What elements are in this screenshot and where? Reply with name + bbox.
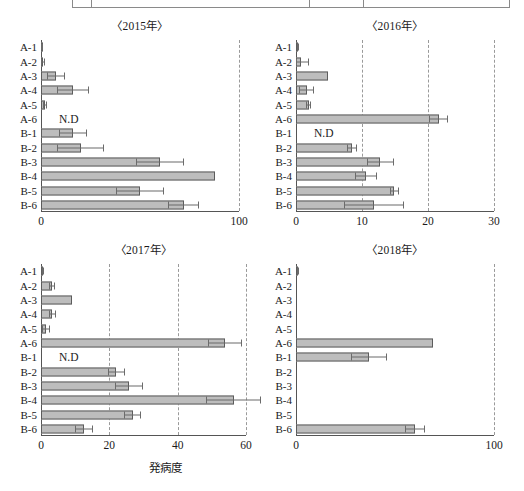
- category-label-a-3: A-3: [20, 294, 37, 306]
- category-label-a-3: A-3: [20, 70, 37, 82]
- category-label-a-5: A-5: [275, 99, 292, 111]
- category-label-a-6: A-6: [20, 113, 37, 125]
- bar-a-3: [296, 71, 328, 80]
- error-bar-b-6: [75, 428, 93, 429]
- error-bar-b-2: [347, 147, 358, 148]
- category-label-a-3: A-3: [275, 70, 292, 82]
- error-bar-a-4: [49, 314, 56, 315]
- category-label-b-4: B-4: [276, 394, 293, 406]
- x-tick-label: 20: [104, 439, 116, 451]
- category-label-b-4: B-4: [21, 170, 38, 182]
- error-bar-b-2: [108, 371, 125, 372]
- bar-b-6: [41, 200, 184, 209]
- x-axis-line: [296, 211, 494, 212]
- bar-b-4: [41, 396, 234, 405]
- plot-area-2018: A-1A-2A-3A-4A-5A-6B-1B-2B-3B-4B-5B-60100: [296, 264, 494, 436]
- error-bar-a-1: [297, 47, 300, 48]
- category-label-b-2: B-2: [21, 142, 38, 154]
- panel-title-2018: 〈2018年〉: [296, 241, 494, 257]
- error-bar-b-4: [355, 176, 376, 177]
- bar-a-6: [296, 114, 439, 123]
- category-label-b-3: B-3: [276, 380, 293, 392]
- category-label-b-6: B-6: [276, 199, 293, 211]
- category-label-a-1: A-1: [20, 41, 37, 53]
- gridline: [239, 40, 240, 211]
- top-legend-box-clipped: [72, 0, 510, 8]
- category-label-a-6: A-6: [275, 337, 292, 349]
- error-bar-b-5: [390, 190, 399, 191]
- plot-area-2017: A-1A-2A-3A-4A-5A-6B-1N.DB-2B-3B-4B-5B-60…: [41, 264, 246, 436]
- y-axis-line: [296, 264, 297, 436]
- error-bar-b-1: [351, 357, 387, 358]
- bar-b-6: [296, 424, 415, 433]
- category-label-a-4: A-4: [275, 84, 292, 96]
- error-bar-a-3: [47, 75, 65, 76]
- error-bar-b-6: [405, 428, 425, 429]
- error-bar-b-4: [206, 400, 261, 401]
- category-label-a-6: A-6: [275, 113, 292, 125]
- bar-b-4: [41, 172, 215, 181]
- error-bar-a-6: [429, 118, 447, 119]
- category-label-a-6: A-6: [20, 337, 37, 349]
- error-bar-a-5: [43, 104, 48, 105]
- category-label-b-2: B-2: [276, 142, 293, 154]
- bar-a-3: [41, 295, 72, 304]
- category-label-b-6: B-6: [276, 423, 293, 435]
- plot-area-2015: A-1A-2A-3A-4A-5A-6N.DB-1B-2B-3B-4B-5B-60…: [41, 40, 239, 212]
- gridline: [428, 40, 429, 211]
- plot-area-2016: A-1A-2A-3A-4A-5A-6B-1N.DB-2B-3B-4B-5B-60…: [296, 40, 494, 212]
- x-tick-label: 20: [422, 215, 434, 227]
- category-label-b-5: B-5: [276, 409, 293, 421]
- error-bar-a-5: [42, 328, 50, 329]
- not-detected-label: N.D: [59, 113, 79, 125]
- x-tick-label: 0: [293, 439, 299, 451]
- category-label-a-4: A-4: [20, 84, 37, 96]
- category-label-a-3: A-3: [275, 294, 292, 306]
- gridline: [178, 264, 179, 435]
- error-bar-b-2: [57, 147, 105, 148]
- x-axis-line: [41, 435, 246, 436]
- error-bar-a-5: [306, 104, 311, 105]
- error-bar-b-6: [344, 204, 403, 205]
- category-label-a-4: A-4: [20, 308, 37, 320]
- category-label-a-1: A-1: [20, 265, 37, 277]
- x-axis-line: [41, 211, 239, 212]
- gridline: [246, 264, 247, 435]
- error-bar-a-2: [49, 285, 56, 286]
- panel-title-2017: 〈2017年〉: [41, 241, 246, 257]
- bar-b-2: [296, 143, 352, 152]
- category-label-b-1: B-1: [21, 127, 38, 139]
- error-bar-b-5: [124, 414, 142, 415]
- category-label-b-3: B-3: [21, 380, 38, 392]
- x-axis-line: [296, 435, 494, 436]
- error-bar-a-4: [57, 90, 89, 91]
- category-label-b-2: B-2: [21, 366, 38, 378]
- error-bar-a-1: [42, 271, 44, 272]
- category-label-a-2: A-2: [275, 280, 292, 292]
- x-tick-label: 30: [488, 215, 500, 227]
- not-detected-label: N.D: [314, 127, 334, 139]
- not-detected-label: N.D: [59, 351, 79, 363]
- x-axis-title: 発病度: [149, 459, 182, 475]
- category-label-a-5: A-5: [20, 99, 37, 111]
- bar-a-6: [41, 338, 225, 347]
- category-label-b-6: B-6: [21, 423, 38, 435]
- error-bar-a-4: [299, 90, 315, 91]
- bar-a-6: [296, 338, 433, 347]
- gridline: [494, 264, 495, 435]
- category-label-b-3: B-3: [21, 156, 38, 168]
- category-label-b-1: B-1: [276, 351, 293, 363]
- category-label-a-2: A-2: [20, 280, 37, 292]
- category-label-a-5: A-5: [275, 323, 292, 335]
- error-bar-a-2: [41, 61, 45, 62]
- error-bar-a-1: [297, 271, 299, 272]
- x-tick-label: 0: [293, 215, 299, 227]
- category-label-b-3: B-3: [276, 156, 293, 168]
- x-tick-label: 40: [172, 439, 184, 451]
- x-tick-label: 0: [38, 215, 44, 227]
- category-label-b-1: B-1: [276, 127, 293, 139]
- category-label-a-4: A-4: [275, 308, 292, 320]
- error-bar-b-1: [59, 133, 87, 134]
- panel-title-2016: 〈2016年〉: [296, 17, 494, 33]
- bar-b-5: [41, 410, 133, 419]
